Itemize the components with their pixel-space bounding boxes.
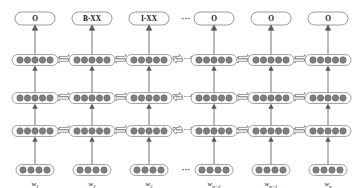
vertical-connectors-layer3-from-layer2 <box>32 66 330 93</box>
output-label-3[interactable]: O <box>194 12 234 25</box>
node-dot <box>81 95 87 101</box>
cell-l1-c4[interactable] <box>248 126 294 137</box>
vertical-arrow-l3-4 <box>268 66 273 93</box>
node-dot <box>89 57 95 63</box>
node-dot <box>96 128 102 134</box>
node-dot <box>260 128 266 134</box>
output-label-1[interactable]: B-XX <box>72 12 112 25</box>
node-dot <box>283 95 289 101</box>
cell-l2-c0[interactable] <box>12 93 58 104</box>
node-dot <box>81 128 87 134</box>
node-dot <box>196 95 202 101</box>
node-dot <box>158 167 164 173</box>
node-dot <box>321 167 327 173</box>
vertical-arrow-l2-5 <box>325 104 330 126</box>
node-dot <box>28 167 34 173</box>
node-dot <box>223 167 229 173</box>
vertical-arrow-l2-0 <box>32 104 37 126</box>
node-dot <box>317 95 323 101</box>
vertical-arrow-output-1 <box>89 25 94 55</box>
node-dot <box>264 167 270 173</box>
node-dot <box>74 128 80 134</box>
node-dot <box>101 167 107 173</box>
node-dot <box>340 95 346 101</box>
output-label-5[interactable]: O <box>308 12 348 25</box>
node-dot <box>196 128 202 134</box>
layer1-gap-ellipsis: ··· <box>184 127 191 133</box>
cell-emb-c3[interactable] <box>195 165 233 176</box>
cell-l1-c0[interactable] <box>12 126 58 137</box>
node-dot <box>272 167 278 173</box>
node-dot <box>74 57 80 63</box>
output-label-4[interactable]: O <box>251 12 291 25</box>
layer3-gap-ellipsis: ··· <box>184 56 191 62</box>
node-dot <box>81 57 87 63</box>
node-dot <box>226 57 232 63</box>
cell-l1-c1[interactable] <box>69 126 115 137</box>
node-dot <box>196 57 202 63</box>
word-label-2: w3 <box>145 180 153 188</box>
node-dot <box>153 128 159 134</box>
layer2-gap-ellipsis: ··· <box>184 94 191 100</box>
cell-l3-c4[interactable] <box>248 55 294 66</box>
node-dot <box>218 57 224 63</box>
node-dot <box>89 95 95 101</box>
cell-l3-c3[interactable] <box>191 55 237 66</box>
cell-l1-c3[interactable] <box>191 126 237 137</box>
node-dot <box>211 128 217 134</box>
output-label-text: O <box>268 14 274 23</box>
cell-emb-c2[interactable] <box>130 165 168 176</box>
cell-emb-c5[interactable] <box>309 165 347 176</box>
cell-emb-c1[interactable] <box>73 165 111 176</box>
node-dot <box>325 95 331 101</box>
cell-l3-c5[interactable] <box>305 55 351 66</box>
node-dot <box>74 95 80 101</box>
node-dot <box>256 167 262 173</box>
vertical-arrow-l2-2 <box>146 104 151 126</box>
vertical-arrow-l1-4 <box>268 137 273 165</box>
output-label-0[interactable]: O <box>15 12 55 25</box>
node-dot <box>275 95 281 101</box>
node-dot <box>340 128 346 134</box>
cell-l2-c4[interactable] <box>248 93 294 104</box>
vertical-connectors-layer1-from-embedding <box>32 137 330 165</box>
cell-l3-c2[interactable] <box>126 55 172 66</box>
cell-l3-c0[interactable] <box>12 55 58 66</box>
node-dot <box>104 128 110 134</box>
cell-emb-c4[interactable] <box>252 165 290 176</box>
vertical-arrow-l3-5 <box>325 66 330 93</box>
output-label-2[interactable]: I-XX <box>129 12 169 25</box>
vertical-arrow-l3-2 <box>146 66 151 93</box>
cell-l2-c3[interactable] <box>191 93 237 104</box>
cell-l1-c5[interactable] <box>305 126 351 137</box>
cell-l1-c2[interactable] <box>126 126 172 137</box>
node-dot <box>39 57 45 63</box>
cell-l3-c1[interactable] <box>69 55 115 66</box>
node-dot <box>340 57 346 63</box>
cell-l2-c1[interactable] <box>69 93 115 104</box>
node-dot <box>138 128 144 134</box>
node-dot <box>199 167 205 173</box>
cell-l2-c5[interactable] <box>305 93 351 104</box>
vertical-arrow-output-4 <box>268 25 273 55</box>
word-label-1: w2 <box>88 180 96 188</box>
node-dot <box>260 57 266 63</box>
vertical-arrow-l1-3 <box>211 137 216 165</box>
node-dot <box>77 167 83 173</box>
node-dot <box>138 95 144 101</box>
node-dot <box>24 95 30 101</box>
node-dot <box>146 95 152 101</box>
node-dot <box>131 128 137 134</box>
node-dot <box>146 57 152 63</box>
cell-l2-c2[interactable] <box>126 93 172 104</box>
node-dot <box>280 167 286 173</box>
node-dot <box>260 95 266 101</box>
node-dot <box>253 95 259 101</box>
node-dot <box>313 167 319 173</box>
node-dot <box>47 95 53 101</box>
node-dot <box>104 57 110 63</box>
output-label-text: B-XX <box>83 14 102 23</box>
node-dot <box>161 57 167 63</box>
cell-emb-c0[interactable] <box>16 165 54 176</box>
vertical-connectors-output <box>32 25 330 55</box>
